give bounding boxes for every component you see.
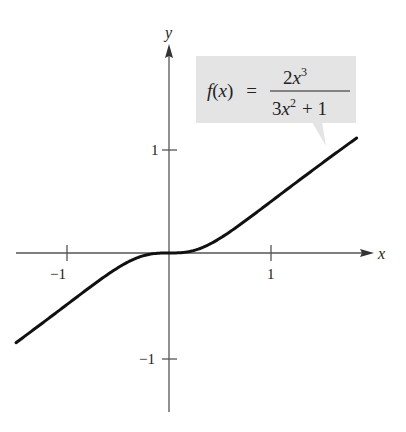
x-tick-label-pos1: 1 — [267, 266, 275, 282]
y-axis: y 1 −1 — [139, 24, 177, 412]
x-axis: x −1 1 — [16, 245, 385, 282]
y-axis-arrow-icon — [165, 44, 173, 58]
y-tick-label-pos1: 1 — [151, 142, 159, 158]
function-plot: f(x) = 2x3 3x2+ 1 x −1 1 y 1 −1 — [0, 0, 406, 432]
formula-callout: f(x) = 2x3 3x2+ 1 — [196, 56, 356, 146]
x-axis-label: x — [377, 245, 385, 262]
formula-lhs: f(x) = — [207, 80, 257, 102]
y-axis-label: y — [163, 24, 173, 42]
x-axis-arrow-icon — [360, 249, 374, 257]
x-tick-label-neg1: −1 — [50, 266, 66, 282]
callout-pointer — [312, 122, 326, 146]
y-tick-label-neg1: −1 — [139, 351, 155, 367]
function-curve — [16, 138, 357, 343]
